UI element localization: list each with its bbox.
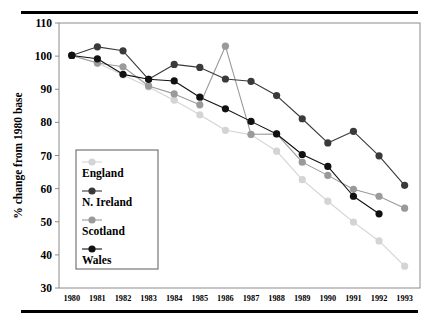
- y-tick-label: 90: [41, 83, 53, 95]
- data-point: [247, 131, 254, 138]
- data-point: [324, 163, 331, 170]
- data-point: [68, 52, 75, 59]
- data-point: [375, 237, 382, 244]
- data-point: [375, 152, 382, 159]
- x-tick-label: 1984: [166, 294, 183, 303]
- x-tick-label: 1989: [294, 294, 311, 303]
- data-point: [171, 90, 178, 97]
- data-point: [273, 148, 280, 155]
- data-point: [171, 97, 178, 104]
- data-point: [350, 128, 357, 135]
- data-point: [350, 218, 357, 225]
- data-point: [196, 64, 203, 71]
- data-point: [273, 92, 280, 99]
- x-tick-label: 1988: [268, 294, 285, 303]
- data-point: [350, 193, 357, 200]
- data-point: [247, 118, 254, 125]
- y-tick-label: 80: [41, 116, 53, 128]
- data-point: [119, 71, 126, 78]
- legend-marker-icon: [88, 216, 95, 223]
- data-point: [196, 111, 203, 118]
- figure-container: 30405060708090100110 1980198119821983198…: [0, 0, 433, 324]
- x-tick-label: 1993: [396, 294, 413, 303]
- data-point: [196, 101, 203, 108]
- data-point: [119, 47, 126, 54]
- y-axis-title: % change from 1980 base: [12, 92, 25, 218]
- plot-wrapper: 30405060708090100110 1980198119821983198…: [0, 0, 433, 324]
- y-axis-ticks: 30405060708090100110: [35, 17, 59, 294]
- x-tick-label: 1991: [345, 294, 362, 303]
- data-point: [222, 75, 229, 82]
- y-tick-label: 40: [41, 249, 53, 261]
- x-tick-label: 1986: [217, 294, 234, 303]
- data-point: [299, 115, 306, 122]
- data-point: [171, 61, 178, 68]
- data-point: [324, 172, 331, 179]
- y-tick-label: 60: [41, 183, 53, 195]
- chart-legend: EnglandN. IrelandScotlandWales: [76, 150, 158, 269]
- x-axis-ticks: 1980198119821983198419851986198719881989…: [64, 294, 413, 303]
- data-point: [145, 76, 152, 83]
- data-point: [350, 186, 357, 193]
- legend-label: N. Ireland: [82, 196, 133, 208]
- data-point: [247, 78, 254, 85]
- y-tick-label: 70: [41, 150, 53, 162]
- data-point: [94, 43, 101, 50]
- x-tick-label: 1992: [371, 294, 388, 303]
- data-point: [401, 205, 408, 212]
- legend-marker-icon: [88, 245, 95, 252]
- data-point: [171, 77, 178, 84]
- data-point: [324, 139, 331, 146]
- legend-label: England: [82, 167, 124, 180]
- legend-marker-icon: [88, 158, 95, 165]
- data-point: [299, 176, 306, 183]
- data-point: [401, 182, 408, 189]
- y-tick-label: 110: [35, 17, 52, 29]
- x-tick-label: 1987: [243, 294, 260, 303]
- x-tick-label: 1982: [115, 294, 132, 303]
- data-point: [119, 63, 126, 70]
- data-point: [299, 151, 306, 158]
- data-point: [222, 127, 229, 134]
- x-tick-label: 1990: [320, 294, 337, 303]
- data-point: [299, 159, 306, 166]
- legend-label: Wales: [82, 254, 112, 266]
- legend-label: Scotland: [82, 225, 125, 237]
- data-point: [145, 82, 152, 89]
- data-point: [401, 263, 408, 270]
- x-tick-label: 1980: [64, 294, 81, 303]
- x-tick-label: 1981: [89, 294, 106, 303]
- data-point: [94, 55, 101, 62]
- data-point: [222, 105, 229, 112]
- data-point: [375, 210, 382, 217]
- data-point: [375, 193, 382, 200]
- data-point: [273, 130, 280, 137]
- x-tick-label: 1983: [140, 294, 157, 303]
- y-tick-label: 30: [41, 282, 53, 294]
- data-point: [196, 94, 203, 101]
- y-tick-label: 100: [35, 50, 53, 62]
- data-point: [222, 43, 229, 50]
- y-axis-title-text: % change from 1980 base: [12, 92, 25, 218]
- line-chart: 30405060708090100110 1980198119821983198…: [0, 0, 433, 324]
- x-tick-label: 1985: [192, 294, 209, 303]
- y-tick-label: 50: [41, 216, 53, 228]
- data-point: [324, 198, 331, 205]
- legend-marker-icon: [88, 187, 95, 194]
